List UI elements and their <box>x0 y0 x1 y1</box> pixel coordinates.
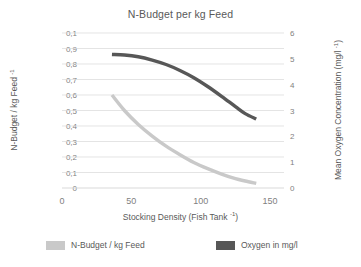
chart-title: N-Budget per kg Feed <box>0 8 361 20</box>
y-axis-right-tick-label: 1 <box>290 158 310 167</box>
y-axis-right-title-tail: ) <box>333 40 343 43</box>
gridlines <box>62 33 284 188</box>
x-axis-title: Stocking Density (Fish Tank -1) <box>0 211 361 222</box>
x-axis-tick-label: 150 <box>263 196 278 206</box>
plot-svg <box>62 33 284 188</box>
legend-item-n-budget[interactable]: N-Budget / kg Feed <box>46 240 145 250</box>
x-axis-title-tail: ) <box>235 212 238 222</box>
legend-item-oxygen[interactable]: Oxygen in mg/l <box>216 240 298 250</box>
y-axis-right-tick-label: 5 <box>290 54 310 63</box>
chart-legend: N-Budget / kg Feed Oxygen in mg/l <box>0 240 361 256</box>
y-axis-right-title: Mean Oxygen Concentration (mg/l -1) <box>333 40 344 180</box>
y-axis-right-title-text: Mean Oxygen Concentration (mg/l <box>333 48 343 180</box>
y-axis-right-tick-label: 4 <box>290 80 310 89</box>
x-axis-tick-label: 100 <box>193 196 208 206</box>
legend-swatch-oxygen <box>216 241 235 250</box>
x-axis-tick-label: 50 <box>126 196 136 206</box>
y-axis-left-title: N-Budget / kg Feed -1 <box>9 69 20 150</box>
series-line-n-budget <box>112 95 256 183</box>
y-axis-right-tick-label: 3 <box>290 106 310 115</box>
legend-label-n-budget: N-Budget / kg Feed <box>71 240 145 250</box>
legend-swatch-n-budget <box>46 241 65 250</box>
y-axis-right-tick-label: 0 <box>290 184 310 193</box>
y-axis-left-title-superscript: -1 <box>9 69 15 74</box>
y-axis-right-tick-label: 2 <box>290 132 310 141</box>
x-axis-title-text: Stocking Density (Fish Tank <box>123 212 230 222</box>
y-axis-right-tick-label: 6 <box>290 29 310 38</box>
x-axis-tick-label: 0 <box>59 196 64 206</box>
y-axis-left-title-text: N-Budget / kg Feed <box>9 75 19 151</box>
y-axis-right-title-superscript: -1 <box>333 43 339 48</box>
series-lines <box>112 54 256 183</box>
plot-area <box>62 33 284 188</box>
legend-label-oxygen: Oxygen in mg/l <box>241 240 298 250</box>
chart-container: N-Budget per kg Feed 00,10,20,30,40,50,6… <box>0 0 361 267</box>
